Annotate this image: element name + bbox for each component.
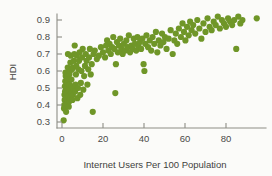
data-point [170, 51, 176, 57]
data-point [92, 48, 98, 54]
chart-canvas: 0204060800.30.40.50.60.70.80.9 Internet … [0, 0, 272, 176]
data-point [110, 34, 116, 40]
x-axis-title: Internet Users Per 100 Population [83, 159, 226, 170]
y-axis-title: HDI [7, 64, 18, 80]
data-point [223, 24, 229, 30]
x-axis-tick-label: 80 [221, 133, 232, 144]
data-point [68, 76, 74, 82]
data-point [143, 32, 149, 38]
data-point [200, 20, 206, 26]
y-axis-tick-label: 0.5 [37, 82, 50, 93]
data-point [163, 46, 169, 52]
data-point [78, 80, 84, 86]
data-point [174, 41, 180, 47]
data-point [140, 61, 146, 67]
scatter-plot-figure: 0204060800.30.40.50.60.70.80.9 Internet … [0, 0, 272, 176]
y-axis-tick-label: 0.9 [37, 14, 50, 25]
data-point [138, 46, 144, 52]
data-point [192, 30, 198, 36]
data-point [148, 48, 154, 54]
x-axis-tick-label: 0 [59, 133, 64, 144]
data-point [254, 15, 260, 21]
data-point [194, 17, 200, 23]
data-points-layer [61, 14, 260, 124]
data-point [239, 17, 245, 23]
data-point [168, 27, 174, 33]
x-axis-tick-label: 20 [98, 133, 109, 144]
data-point [102, 54, 108, 60]
data-point [112, 90, 118, 96]
y-axis-tick-label: 0.8 [37, 31, 50, 42]
data-point [233, 46, 239, 52]
y-axis-tick-label: 0.7 [37, 48, 50, 59]
data-point [204, 15, 210, 21]
data-point [90, 109, 96, 115]
data-point [88, 71, 94, 77]
data-point [202, 29, 208, 35]
y-axis-tick-label: 0.4 [37, 99, 50, 110]
data-point [153, 29, 159, 35]
data-point [72, 42, 78, 48]
data-point [150, 34, 156, 40]
data-point [198, 36, 204, 42]
data-point [154, 49, 160, 55]
data-point [166, 36, 172, 42]
data-point [117, 36, 123, 42]
data-point [196, 25, 202, 31]
y-axis-tick-label: 0.3 [37, 116, 50, 127]
data-point [182, 37, 188, 43]
x-axis-tick-label: 60 [180, 133, 191, 144]
data-point [81, 73, 87, 79]
data-point [141, 68, 147, 74]
data-point [89, 61, 95, 67]
y-axis-tick-label: 0.6 [37, 65, 50, 76]
data-point [108, 51, 114, 57]
data-point [217, 25, 223, 31]
data-point [80, 87, 86, 93]
data-point [209, 27, 215, 33]
x-axis-tick-label: 40 [139, 133, 150, 144]
data-point [176, 25, 182, 31]
data-point [113, 61, 119, 67]
data-point [190, 22, 196, 28]
data-point [84, 82, 90, 88]
